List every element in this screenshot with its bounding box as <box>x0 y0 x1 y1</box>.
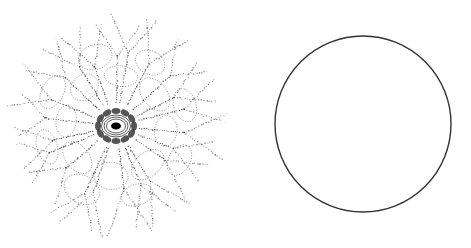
circle-panel <box>240 0 471 248</box>
circle-outline-illustration <box>240 0 471 248</box>
circle-outline <box>275 36 451 212</box>
radial-network-illustration <box>0 0 240 248</box>
network-drawing-panel <box>0 0 240 248</box>
nucleus <box>111 123 121 130</box>
